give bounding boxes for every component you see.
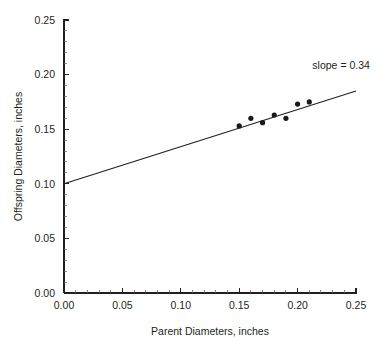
data-point bbox=[295, 101, 300, 106]
x-tick-label: 0.05 bbox=[112, 299, 133, 311]
x-axis-title: Parent Diameters, inches bbox=[151, 325, 269, 337]
y-tick-label: 0.05 bbox=[35, 232, 56, 244]
y-tick-label: 0.20 bbox=[35, 68, 56, 80]
x-tick-label: 0.00 bbox=[54, 299, 75, 311]
y-tick-label: 0.10 bbox=[35, 178, 56, 190]
data-point bbox=[283, 116, 288, 121]
data-point bbox=[248, 116, 253, 121]
data-point bbox=[237, 123, 242, 128]
x-tick-label: 0.15 bbox=[229, 299, 250, 311]
y-tick-label: 0.00 bbox=[35, 287, 56, 299]
scatter-plot: 0.000.050.100.150.200.25 0.000.050.100.1… bbox=[0, 0, 392, 351]
y-tick-label: 0.25 bbox=[35, 14, 56, 26]
y-tick-label: 0.15 bbox=[35, 123, 56, 135]
data-point bbox=[272, 112, 277, 117]
chart-figure: 0.000.050.100.150.200.25 0.000.050.100.1… bbox=[0, 0, 392, 351]
x-tick-label: 0.25 bbox=[346, 299, 367, 311]
x-tick-label: 0.10 bbox=[171, 299, 192, 311]
slope-annotation-label: slope = 0.34 bbox=[312, 59, 370, 71]
data-point bbox=[260, 120, 265, 125]
data-point bbox=[307, 99, 312, 104]
y-axis-title: Offspring Diameters, inches bbox=[12, 92, 24, 221]
x-tick-label: 0.20 bbox=[287, 299, 308, 311]
